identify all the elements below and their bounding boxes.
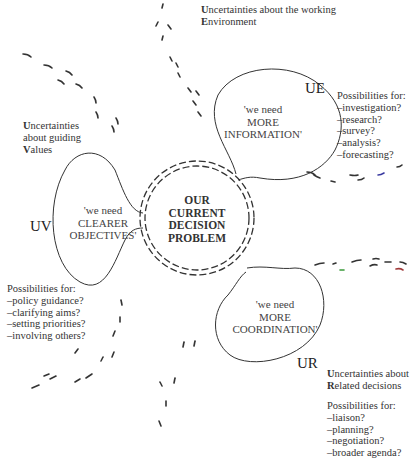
possibility-item: –negotiation? — [327, 435, 401, 447]
uv-heading-line2: about guiding — [23, 132, 81, 144]
boundary-dash-right-upper — [307, 165, 402, 182]
uv-heading-cap1: U — [23, 120, 31, 131]
bubble-line: MORE — [228, 311, 322, 324]
bubble-line: CLEARER — [66, 217, 140, 230]
ur-heading-cap1: U — [327, 368, 335, 379]
bubble-line: 'we need — [218, 103, 308, 116]
possibility-item: –analysis? — [337, 137, 406, 149]
bubble-line: COORDINATION' — [228, 323, 322, 336]
uv-heading-rest3: alues — [31, 144, 53, 155]
uv-possibilities: Possibilities for: –policy guidance? –cl… — [7, 283, 85, 342]
possibility-item: –clarifying aims? — [7, 307, 85, 319]
possibility-item: –survey? — [337, 125, 406, 137]
ur-heading-rest2: elated decisions — [335, 380, 402, 391]
uv-heading-rest1: ncertainties — [31, 120, 79, 131]
boundary-dash-bottom — [159, 341, 195, 426]
ue-heading: Uncertainties about the working Environm… — [201, 4, 336, 28]
ue-tag: UE — [305, 80, 325, 97]
possibility-item: –broader agenda? — [327, 447, 401, 459]
bubble-line: 'we need — [66, 204, 140, 217]
ue-possibilities: Possibilities for: –investigation? –rese… — [337, 90, 406, 161]
ue-bubble-text: 'we need MORE INFORMATION' — [218, 103, 308, 141]
center-line: OUR — [163, 194, 231, 207]
bubble-line: MORE — [218, 116, 308, 129]
ur-possibilities: Possibilities for: –liaison? –planning? … — [327, 400, 401, 459]
possibilities-title: Possibilities for: — [327, 400, 401, 412]
possibility-item: –forecasting? — [337, 149, 406, 161]
ue-heading-rest1: ncertainties about the working — [209, 4, 336, 15]
bubble-line: OBJECTIVES' — [66, 229, 140, 242]
center-line: DECISION — [163, 219, 231, 232]
boundary-dash-top — [156, 4, 201, 116]
possibility-item: –investigation? — [337, 102, 406, 114]
center-problem-label: OUR CURRENT DECISION PROBLEM — [163, 194, 231, 245]
possibilities-title: Possibilities for: — [337, 90, 406, 102]
boundary-dash-right-lower — [315, 259, 406, 271]
uv-tag: UV — [30, 218, 52, 235]
ue-heading-cap2: E — [201, 16, 208, 27]
ur-bubble-text: 'we need MORE COORDINATION' — [228, 298, 322, 336]
ur-tag: UR — [297, 355, 318, 372]
ue-heading-rest2: nvironment — [208, 16, 256, 27]
possibility-item: –liaison? — [327, 412, 401, 424]
ur-heading-cap2: R — [327, 380, 335, 391]
uv-heading: Uncertainties about guiding Values — [23, 120, 81, 155]
bubble-line: INFORMATION' — [218, 128, 308, 141]
possibility-item: –setting priorities? — [7, 318, 85, 330]
possibilities-title: Possibilities for: — [7, 283, 85, 295]
possibility-item: –involving others? — [7, 330, 85, 342]
center-line: CURRENT — [163, 207, 231, 220]
possibility-item: –research? — [337, 114, 406, 126]
possibility-item: –policy guidance? — [7, 295, 85, 307]
uv-heading-cap3: V — [23, 144, 31, 155]
possibility-item: –planning? — [327, 424, 401, 436]
ur-heading: Uncertainties about Related decisions — [327, 368, 409, 392]
bubble-line: 'we need — [228, 298, 322, 311]
ue-heading-cap1: U — [201, 4, 209, 15]
center-line: PROBLEM — [163, 232, 231, 245]
uv-bubble-text: 'we need CLEARER OBJECTIVES' — [66, 204, 140, 242]
ur-heading-rest1: ncertainties about — [335, 368, 409, 379]
